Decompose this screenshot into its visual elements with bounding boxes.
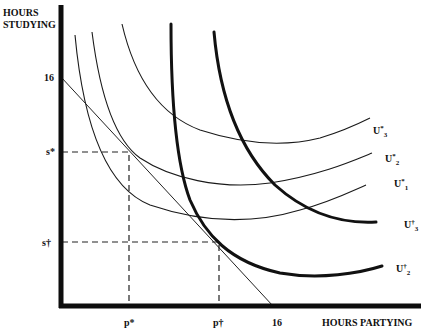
budget-line xyxy=(61,77,273,306)
curve-U-star-1 xyxy=(75,35,366,220)
curve-U-star-3 xyxy=(122,24,370,143)
curve-U-dagger-3 xyxy=(214,32,376,222)
svg-text:U*3: U*3 xyxy=(373,124,388,139)
x-tick-16: 16 xyxy=(272,317,282,328)
y-axis-title-line2: STUDYING xyxy=(3,19,56,30)
label-U-star-1: U*1 xyxy=(394,177,409,192)
label-U-star-2: U*2 xyxy=(385,152,400,167)
y-tick-16: 16 xyxy=(44,72,54,83)
label-U-star-3: U*3 xyxy=(373,124,388,139)
svg-text:U*2: U*2 xyxy=(385,152,400,167)
x-axis-title: HOURS PARTYING xyxy=(322,317,413,328)
x-tick-p-star: p* xyxy=(124,317,135,328)
svg-text:U†3: U†3 xyxy=(404,218,419,233)
indifference-curve-diagram: HOURS STUDYING HOURS PARTYING 16 s* s† p… xyxy=(0,0,427,330)
star-optimum-guides xyxy=(62,152,129,306)
x-tick-p-dagger: p† xyxy=(213,317,224,328)
label-U-dagger-3: U†3 xyxy=(404,218,419,233)
curve-U-star-2 xyxy=(92,32,372,185)
label-U-dagger-2: U†2 xyxy=(396,262,411,277)
svg-text:U*1: U*1 xyxy=(394,177,409,192)
svg-text:U†2: U†2 xyxy=(396,262,411,277)
dagger-optimum-guides xyxy=(62,242,219,306)
curve-U-dagger-2 xyxy=(171,24,382,276)
y-axis-title-line1: HOURS xyxy=(3,7,39,18)
y-tick-s-star: s* xyxy=(46,146,55,157)
y-tick-s-dagger: s† xyxy=(42,237,51,248)
